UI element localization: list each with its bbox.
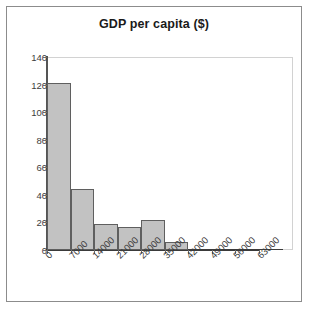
y-axis-tick-label: 20 xyxy=(7,217,47,228)
bars-layer xyxy=(47,57,293,250)
y-axis-tick-label: 120 xyxy=(7,79,47,90)
y-axis-tick-label: 60 xyxy=(7,162,47,173)
y-axis-tick-label: 140 xyxy=(7,52,47,63)
x-axis-labels: 0700014000210002800035000420004900056000… xyxy=(0,253,310,303)
y-axis-tick-label: 40 xyxy=(7,189,47,200)
y-axis-tick-label: 100 xyxy=(7,107,47,118)
chart-figure: GDP per capita ($) 020406080100120140 07… xyxy=(0,0,310,309)
y-axis-tick-label: 80 xyxy=(7,134,47,145)
histogram-bar xyxy=(47,83,71,250)
chart-title: GDP per capita ($) xyxy=(6,17,302,31)
